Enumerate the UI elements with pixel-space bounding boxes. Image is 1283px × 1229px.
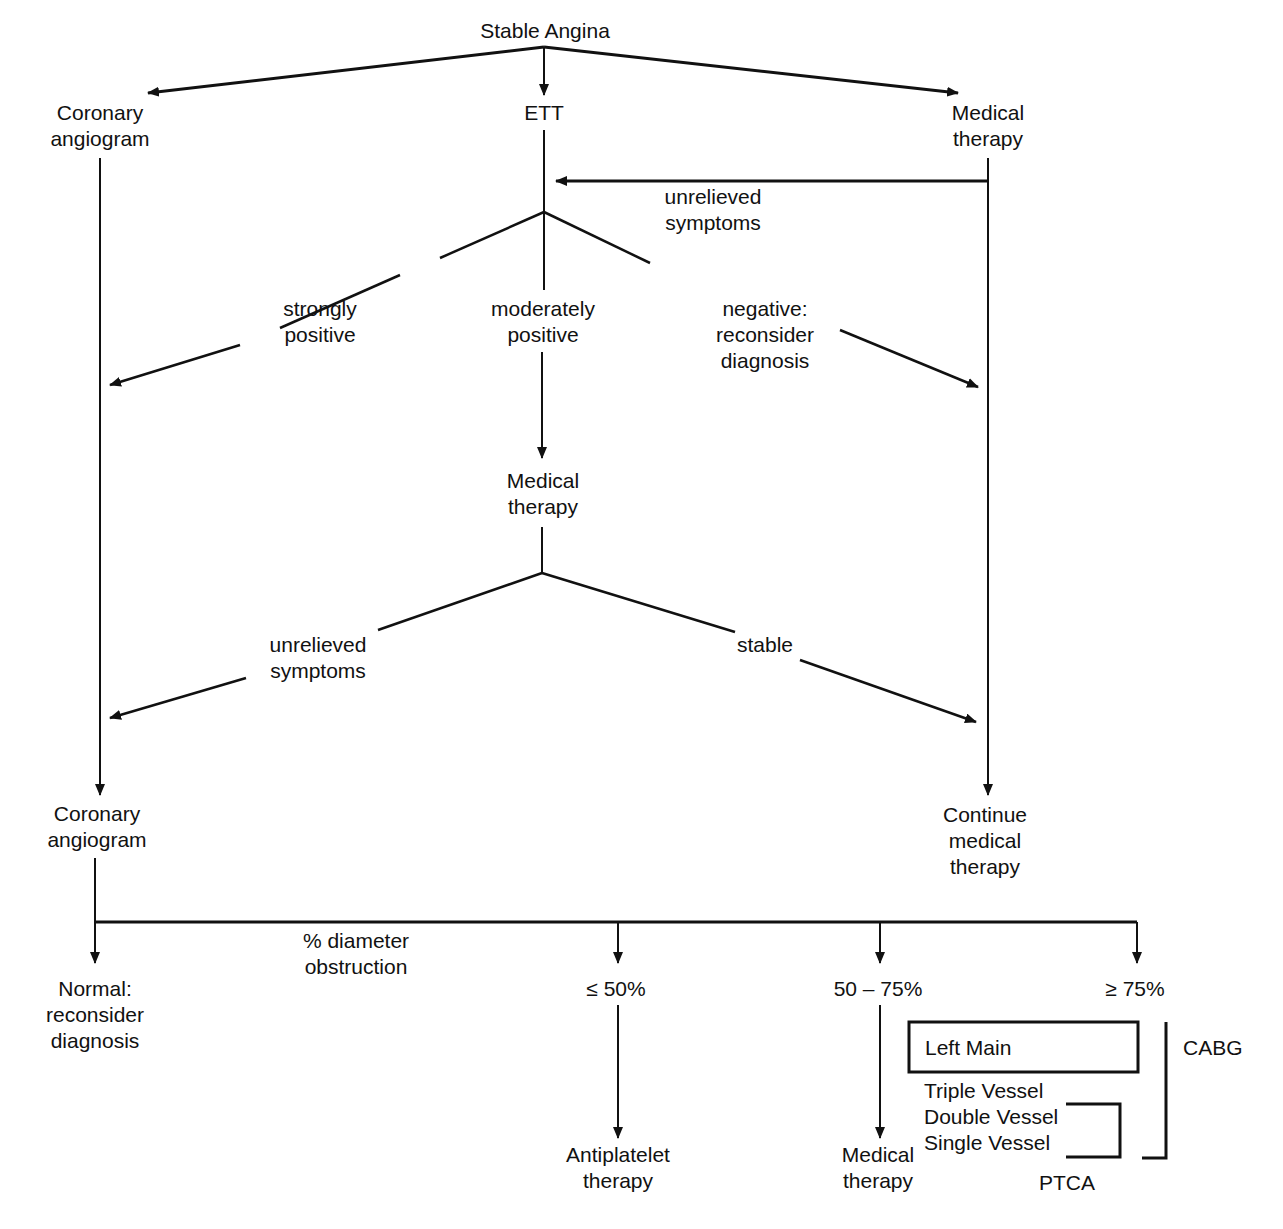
label-unrelieved-symptoms-top: unrelieved symptoms: [665, 184, 762, 236]
node-stable-angina: Stable Angina: [480, 18, 610, 44]
flowchart-connectors: [0, 0, 1283, 1229]
label-single-vessel: Single Vessel: [924, 1130, 1050, 1156]
label-ptca: PTCA: [1039, 1170, 1095, 1196]
label-stable: stable: [737, 632, 793, 658]
node-normal-reconsider: Normal: reconsider diagnosis: [46, 976, 144, 1054]
node-le-50: ≤ 50%: [586, 976, 645, 1002]
node-medical-therapy-mid: Medical therapy: [507, 468, 579, 520]
node-coronary-angiogram-bottom: Coronary angiogram: [47, 801, 146, 853]
node-coronary-angiogram-top: Coronary angiogram: [50, 100, 149, 152]
label-double-vessel: Double Vessel: [924, 1104, 1058, 1130]
label-moderately-positive: moderately positive: [491, 296, 595, 348]
node-medical-therapy-top: Medical therapy: [952, 100, 1024, 152]
node-ge-75: ≥ 75%: [1105, 976, 1164, 1002]
label-negative-reconsider: negative: reconsider diagnosis: [716, 296, 814, 374]
node-continue-medical-therapy: Continue medical therapy: [943, 802, 1027, 880]
label-triple-vessel: Triple Vessel: [924, 1078, 1043, 1104]
label-diameter-obstruction: % diameter obstruction: [303, 928, 409, 980]
label-cabg: CABG: [1183, 1035, 1243, 1061]
node-antiplatelet-therapy: Antiplatelet therapy: [566, 1142, 670, 1194]
node-medical-therapy-bottom: Medical therapy: [842, 1142, 914, 1194]
node-50-75: 50 – 75%: [834, 976, 923, 1002]
label-unrelieved-symptoms-mid: unrelieved symptoms: [270, 632, 367, 684]
label-strongly-positive: strongly positive: [283, 296, 357, 348]
label-left-main: Left Main: [925, 1035, 1011, 1061]
node-ett: ETT: [524, 100, 564, 126]
